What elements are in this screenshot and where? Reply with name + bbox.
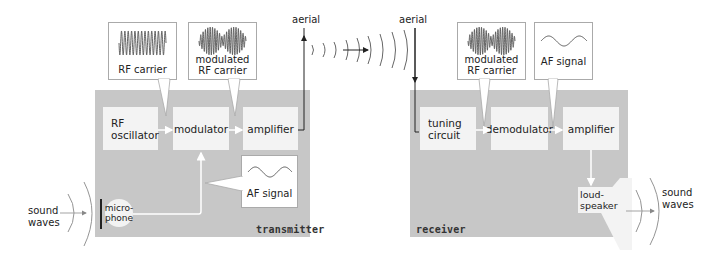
receiver-aerial-label: aerial (399, 14, 427, 26)
receiver-label: receiver (416, 224, 466, 235)
output-sound-waves-label: sound waves (662, 187, 694, 211)
input-sound-waves-label: sound waves (28, 205, 60, 229)
connections (0, 0, 715, 259)
transmitter-label: transmitter (256, 224, 324, 235)
transmitter-aerial-label: aerial (292, 14, 320, 26)
radio-transmission-diagram: RF oscillator modulator amplifier tuning… (0, 0, 715, 259)
